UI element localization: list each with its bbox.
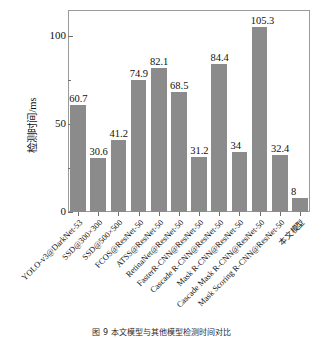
figure-caption: 图 9 本文模型与其他模型检测时间对比 <box>0 326 323 337</box>
x-tick-label-group: YOLO-v3@DarkNet-53SSD@300×300SSD@500×500… <box>0 0 323 338</box>
figure-container: 检测时间/ms 0 50 100 60.730.641.274.982.168.… <box>0 0 323 338</box>
